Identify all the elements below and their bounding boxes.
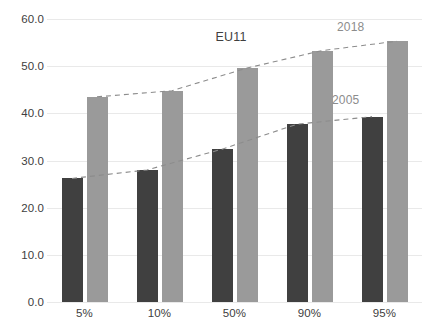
bar-2005-50% [212,149,233,302]
bar-2005-10% [137,170,158,302]
x-axis-tick-label: 10% [148,307,171,319]
gridline [47,19,422,20]
y-axis-tick-label: 60.0 [0,13,44,25]
y-axis-tick-label: 0.0 [0,296,44,308]
y-axis-tick-label: 10.0 [0,249,44,261]
bar-2005-5% [62,178,83,302]
x-axis-tick-label: 50% [223,307,246,319]
bar-2018-10% [162,91,183,302]
y-axis-tick-label: 30.0 [0,155,44,167]
y-axis: 0.010.020.030.040.050.060.0 [0,19,44,302]
chart-container: EU11 0.010.020.030.040.050.060.0 5%10%50… [0,0,430,330]
annotation-2018: 2018 [337,20,365,34]
gridline [47,66,422,67]
annotation-2005: 2005 [332,93,360,107]
x-axis-tick-label: 90% [298,307,321,319]
bar-2018-90% [312,51,333,302]
x-axis-tick-label: 95% [373,307,396,319]
y-axis-tick-label: 50.0 [0,60,44,72]
bar-2005-95% [362,117,383,302]
x-axis: 5%10%50%90%95% [47,303,422,325]
plot-area [47,19,422,302]
bar-2018-50% [237,68,258,302]
bar-2018-5% [87,97,108,302]
y-axis-tick-label: 40.0 [0,107,44,119]
bar-2018-95% [387,41,408,302]
bar-2005-90% [287,124,308,302]
y-axis-tick-label: 20.0 [0,202,44,214]
x-axis-tick-label: 5% [76,307,93,319]
